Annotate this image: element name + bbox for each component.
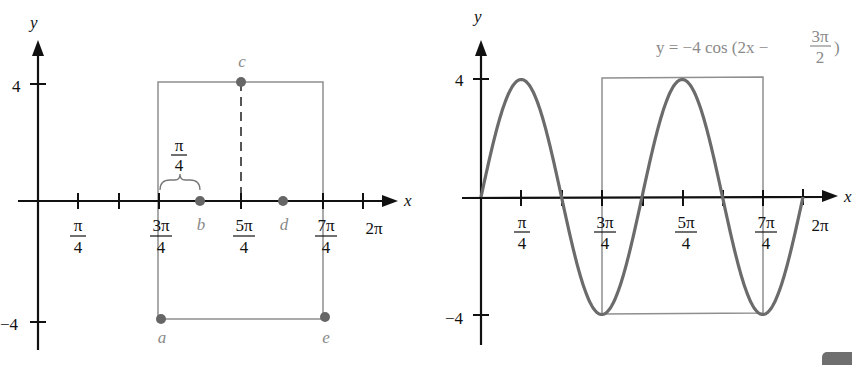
y-axis-arrow-icon bbox=[32, 40, 44, 56]
point-d bbox=[278, 196, 288, 206]
y-tick-neg4: −4 bbox=[0, 315, 19, 334]
point-label-c: c bbox=[238, 52, 246, 71]
x-tick-pi-4: π 4 bbox=[70, 216, 86, 257]
svg-text:4: 4 bbox=[762, 234, 771, 253]
svg-text:5π: 5π bbox=[677, 213, 695, 232]
x-axis-arrow-icon bbox=[382, 195, 398, 207]
svg-text:3π: 3π bbox=[596, 213, 614, 232]
x-tick-7pi-4: 7π 4 bbox=[315, 216, 337, 257]
page-corner-tab bbox=[822, 352, 852, 365]
point-label-e: e bbox=[322, 328, 330, 347]
point-c bbox=[236, 77, 246, 87]
y-tick-4-right: 4 bbox=[455, 71, 464, 90]
x-tick-2pi-right: 2π bbox=[811, 216, 829, 235]
svg-text:4: 4 bbox=[157, 238, 166, 257]
svg-text:4: 4 bbox=[682, 234, 691, 253]
y-axis-label-right: y bbox=[472, 7, 482, 26]
svg-text:y = −4 cos (2x −: y = −4 cos (2x − bbox=[656, 38, 768, 57]
x-tick-2pi: 2π bbox=[365, 219, 383, 238]
y-tick-4: 4 bbox=[12, 77, 21, 96]
x-tick-3pi-4: 3π 4 bbox=[150, 216, 172, 257]
figure-canvas: y x 4 −4 π 4 3π 4 5π 4 7π 4 2π π bbox=[0, 0, 852, 365]
right-panel: y x 4 −4 π 4 3π 4 5π 4 7π 4 2π y = −4 co… bbox=[445, 7, 852, 345]
point-label-b: b bbox=[197, 215, 206, 234]
x-tick-3pi-4-right: 3π 4 bbox=[594, 213, 616, 253]
svg-text:2: 2 bbox=[816, 48, 825, 67]
x-tick-5pi-4: 5π 4 bbox=[233, 216, 255, 257]
point-a bbox=[156, 314, 166, 324]
point-b bbox=[195, 196, 205, 206]
x-axis-right bbox=[462, 197, 828, 198]
y-tick-neg4-right: −4 bbox=[445, 309, 464, 328]
svg-text:π: π bbox=[175, 136, 184, 155]
svg-text:4: 4 bbox=[518, 234, 527, 253]
svg-text:π: π bbox=[74, 216, 83, 235]
svg-text:3π: 3π bbox=[811, 27, 829, 46]
svg-text:7π: 7π bbox=[757, 213, 775, 232]
y-axis-arrow-icon-right bbox=[475, 40, 487, 56]
svg-text:4: 4 bbox=[175, 156, 184, 175]
svg-text:π: π bbox=[518, 213, 527, 232]
svg-text:3π: 3π bbox=[152, 216, 170, 235]
x-axis-label: x bbox=[403, 191, 412, 210]
x-axis-arrow-icon-right bbox=[822, 190, 838, 202]
x-tick-5pi-4-right: 5π 4 bbox=[675, 213, 697, 253]
svg-text:4: 4 bbox=[601, 234, 610, 253]
svg-text:5π: 5π bbox=[235, 216, 253, 235]
brace-label: π 4 bbox=[171, 136, 187, 175]
svg-text:): ) bbox=[834, 38, 840, 57]
brace-icon bbox=[160, 174, 200, 190]
svg-text:7π: 7π bbox=[317, 216, 335, 235]
x-tick-7pi-4-right: 7π 4 bbox=[755, 213, 777, 253]
left-panel: y x 4 −4 π 4 3π 4 5π 4 7π 4 2π π bbox=[0, 13, 412, 350]
equation-label: y = −4 cos (2x − 3π 2 ) bbox=[656, 27, 840, 67]
svg-text:4: 4 bbox=[322, 238, 331, 257]
y-axis-label: y bbox=[28, 13, 38, 32]
x-tick-pi-4-right: π 4 bbox=[514, 213, 530, 253]
svg-text:4: 4 bbox=[74, 238, 83, 257]
point-e bbox=[320, 312, 330, 322]
point-label-a: a bbox=[158, 328, 167, 347]
svg-text:4: 4 bbox=[240, 238, 249, 257]
x-axis-label-right: x bbox=[843, 187, 852, 206]
point-label-d: d bbox=[280, 215, 289, 234]
